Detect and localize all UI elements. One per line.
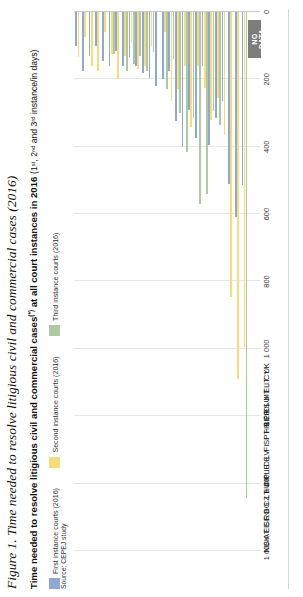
bar — [117, 12, 119, 79]
bar-group — [188, 12, 194, 551]
bar-group — [129, 12, 135, 551]
bar-group — [75, 12, 81, 551]
bar-group — [82, 12, 88, 551]
bar-group — [95, 12, 101, 551]
legend-label-first-instance: First instance courts (2016) — [52, 488, 60, 574]
category-axis-labels: NLSKATEESEROBGCZLTHUDKPLIEDELVFISIPTHRBE… — [262, 12, 276, 551]
bar — [224, 12, 226, 135]
chart-title-paren: (1ˢᵗ, 2ⁿᵈ and 3ʳᵈ instance/in days) — [29, 50, 39, 174]
bar-group — [102, 12, 108, 551]
legend-label-second-instance: Second instance courts (2016) — [52, 356, 60, 452]
category-label-fi: FI — [262, 445, 271, 452]
chart-legend: First instance courts (2016) Second inst… — [44, 217, 58, 589]
bar-group — [162, 12, 168, 551]
bar-group — [142, 12, 148, 551]
legend-item-third-instance: Third instance courts (2016) — [44, 233, 62, 336]
bar-group — [122, 12, 128, 551]
bar-group — [215, 12, 221, 551]
bar-group — [222, 12, 228, 551]
chart-title-asterisk: (*) — [27, 310, 34, 317]
chart-title-bold2: at all court instances in 2016 — [28, 174, 39, 310]
bar-group — [195, 12, 201, 551]
footer-divider — [288, 9, 289, 589]
figure-caption: Figure 1. Time needed to resolve litigio… — [4, 159, 20, 589]
bar-group — [202, 12, 208, 551]
bar — [155, 12, 157, 86]
bar — [230, 12, 232, 297]
bar-group — [168, 12, 174, 551]
bar — [97, 12, 99, 71]
rotated-figure-wrapper: Figure 1. Time needed to resolve litigio… — [0, 0, 303, 597]
bar — [91, 12, 93, 66]
bar-group — [248, 12, 254, 551]
chart-title: Time needed to resolve litigious civil a… — [27, 119, 39, 589]
legend-swatch-third-instance — [49, 325, 60, 336]
category-label-el: EL — [262, 384, 271, 393]
source-note: Source: CEPEJ study — [60, 524, 67, 589]
plot-area: 1 6001 4001 2001 0008006004002000 NO DAT… — [74, 12, 260, 551]
bar-group — [255, 12, 261, 551]
figure-canvas: Figure 1. Time needed to resolve litigio… — [0, 0, 303, 597]
legend-label-third-instance: Third instance courts (2016) — [52, 233, 60, 321]
category-label-lv: LV — [262, 450, 271, 459]
bar-group — [149, 12, 155, 551]
bar-group — [135, 12, 141, 551]
chart-title-bold: Time needed to resolve litigious civil a… — [28, 317, 39, 589]
bar-group — [235, 12, 241, 551]
bar-group — [115, 12, 121, 551]
bar — [84, 12, 86, 37]
bar-group — [208, 12, 214, 551]
bar-group — [228, 12, 234, 551]
bar — [237, 12, 239, 379]
bar-group — [175, 12, 181, 551]
legend-swatch-first-instance — [49, 578, 60, 589]
bar — [78, 12, 80, 57]
bar-group — [109, 12, 115, 551]
bar-group — [242, 12, 248, 551]
no-data-badge: NO DATA — [248, 20, 261, 58]
bar-group — [155, 12, 161, 551]
bar-group — [89, 12, 95, 551]
legend-item-second-instance: Second instance courts (2016) — [44, 356, 62, 467]
category-label-uk: UK — [262, 363, 271, 374]
bar — [104, 12, 106, 32]
bar-group — [182, 12, 188, 551]
legend-swatch-second-instance — [49, 457, 60, 468]
